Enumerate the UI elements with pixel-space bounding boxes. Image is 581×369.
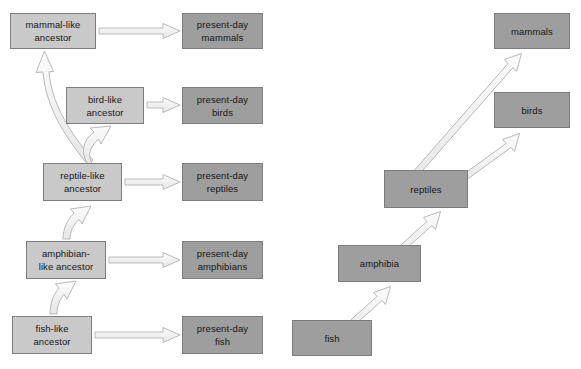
node-present-day-mammals[interactable]: present-day mammals	[182, 13, 263, 49]
node-amphibian-like-ancestor[interactable]: amphibian- like ancestor	[26, 241, 106, 279]
node-mammals[interactable]: mammals	[494, 13, 570, 49]
node-label-line: bird-like	[86, 93, 123, 106]
node-label-line: like ancestor	[39, 260, 94, 273]
node-present-day-birds[interactable]: present-day birds	[182, 87, 263, 124]
node-label-line: ancestor	[60, 182, 105, 195]
node-label-line: birds	[197, 106, 248, 119]
node-label-line: mammals	[511, 25, 553, 38]
node-label-line: present-day	[197, 169, 248, 182]
arrow-fish-ancestor-to-present-fish	[95, 328, 180, 343]
node-label-line: present-day	[197, 93, 248, 106]
node-amphibia[interactable]: amphibia	[338, 245, 421, 282]
node-label-line: ancestor	[26, 31, 81, 44]
node-label-line: ancestor	[86, 106, 123, 119]
arrow-fish-ancestor-to-amphibian-ancestor	[50, 281, 76, 314]
node-fish[interactable]: fish	[292, 320, 372, 356]
node-label-line: amphibia	[360, 257, 399, 270]
node-label-line: mammal-like	[26, 18, 81, 31]
node-label-line: birds	[521, 104, 542, 117]
node-label-line: fish-like	[33, 322, 70, 335]
arrow-bird-ancestor-to-present-birds	[147, 98, 180, 113]
node-label-line: present-day	[197, 322, 248, 335]
node-present-day-amphibians[interactable]: present-day amphibians	[182, 241, 263, 279]
node-label-line: present-day	[197, 18, 248, 31]
node-fish-like-ancestor[interactable]: fish-like ancestor	[12, 316, 92, 354]
node-label-line: ancestor	[33, 335, 70, 348]
node-reptile-like-ancestor[interactable]: reptile-like ancestor	[43, 163, 122, 201]
arrow-reptile-ancestor-to-bird-ancestor	[84, 126, 111, 165]
diagram-canvas: mammal-like ancestor present-day mammals…	[0, 0, 581, 369]
node-label-line: reptiles	[197, 182, 248, 195]
node-present-day-reptiles[interactable]: present-day reptiles	[182, 163, 263, 201]
node-label-line: amphibian-	[39, 247, 94, 260]
node-present-day-fish[interactable]: present-day fish	[182, 316, 263, 354]
node-label-line: fish	[324, 332, 339, 345]
node-bird-like-ancestor[interactable]: bird-like ancestor	[66, 87, 144, 124]
arrow-amphibian-ancestor-to-reptile-ancestor	[63, 206, 91, 239]
node-label-line: present-day	[197, 247, 248, 260]
node-birds[interactable]: birds	[494, 92, 570, 128]
node-label-line: amphibians	[197, 260, 248, 273]
node-label-line: reptile-like	[60, 169, 105, 182]
node-mammal-like-ancestor[interactable]: mammal-like ancestor	[10, 13, 96, 49]
node-label-line: mammals	[197, 31, 248, 44]
node-label-line: reptiles	[410, 183, 441, 196]
arrow-amphibian-ancestor-to-present-amphibians	[109, 253, 180, 268]
node-reptiles[interactable]: reptiles	[384, 170, 468, 208]
arrow-reptile-ancestor-to-present-reptiles	[125, 175, 180, 190]
arrow-mammal-ancestor-to-present-mammals	[99, 24, 180, 39]
node-label-line: fish	[197, 335, 248, 348]
